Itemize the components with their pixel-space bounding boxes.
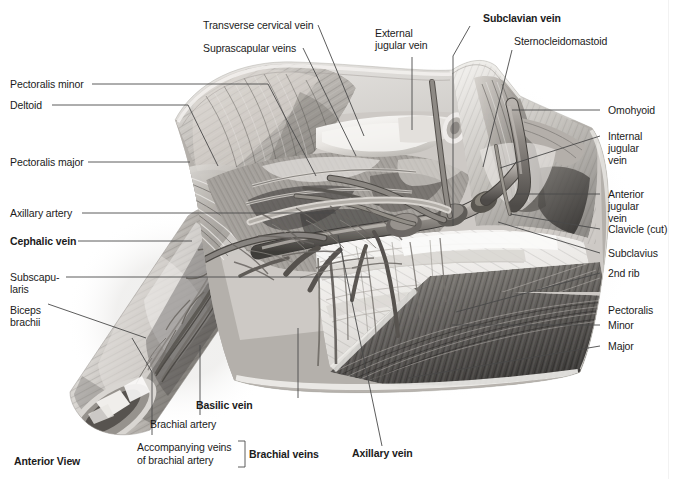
page-right-edge [668, 0, 669, 479]
label-pectoralis-major-right: Major [608, 340, 634, 353]
label-suprascapular-veins: Suprascapular veins [203, 42, 296, 55]
label-cephalic-vein: Cephalic vein [10, 235, 76, 248]
label-transverse-cervical-vein: Transverse cervical vein [203, 19, 313, 32]
label-subscapularis-line1: Subscapu- [10, 271, 59, 284]
label-accompanying-veins-line1: Accompanying veins [137, 441, 232, 454]
label-external-jugular-vein-line1: External [375, 27, 413, 40]
label-brachial-veins: Brachial veins [249, 448, 319, 461]
label-anterior-view: Anterior View [14, 455, 80, 468]
label-sternocleidomastoid: Sternocleidomastoid [514, 35, 607, 48]
label-pectoralis-minor: Pectoralis minor [10, 78, 84, 91]
label-axillary-vein: Axillary vein [352, 447, 413, 460]
label-deltoid: Deltoid [10, 99, 42, 112]
label-subscapularis-line2: laris [10, 283, 29, 296]
figure-canvas: Pectoralis minor Deltoid Pectoralis majo… [0, 0, 676, 479]
label-internal-jugular-vein-line3: vein [608, 154, 627, 167]
label-biceps-brachii-line2: brachii [10, 316, 40, 329]
label-external-jugular-vein-line2: jugular vein [375, 39, 428, 52]
label-internal-jugular-vein-line2: jugular [608, 142, 639, 155]
label-pectoralis-major: Pectoralis major [10, 156, 84, 169]
label-axillary-artery: Axillary artery [10, 207, 72, 220]
label-anterior-jugular-vein-line2: jugular [608, 200, 639, 213]
label-clavicle-cut: Clavicle (cut) [608, 223, 667, 236]
label-subclavian-vein: Subclavian vein [483, 12, 561, 25]
label-omohyoid: Omohyoid [608, 104, 655, 117]
label-subclavius: Subclavius [608, 247, 658, 260]
label-internal-jugular-vein-line1: Internal [608, 130, 642, 143]
label-anterior-jugular-vein-line1: Anterior [608, 188, 644, 201]
label-brachial-artery: Brachial artery [150, 418, 216, 431]
label-basilic-vein: Basilic vein [196, 399, 253, 412]
label-biceps-brachii-line1: Biceps [10, 304, 41, 317]
anatomy-illustration [0, 0, 676, 479]
label-second-rib: 2nd rib [608, 267, 639, 280]
label-pectoralis-group: Pectoralis [608, 304, 653, 317]
label-accompanying-veins-line2: of brachial artery [137, 454, 213, 467]
label-pectoralis-minor-right: Minor [608, 319, 634, 332]
